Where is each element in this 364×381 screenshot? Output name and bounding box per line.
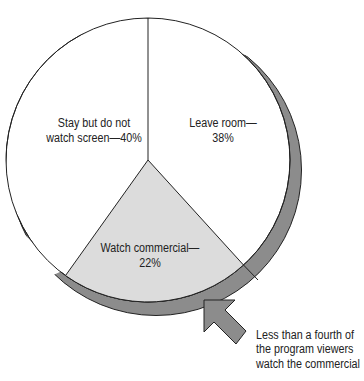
label-line: Watch commercial—: [94, 241, 206, 256]
pie-chart: [0, 0, 364, 381]
label-stay-but-not-watch: Stay but do not watch screen—40%: [34, 116, 154, 146]
label-leave-room: Leave room— 38%: [171, 116, 274, 146]
label-line: 22%: [94, 256, 206, 271]
label-line: watch screen—40%: [34, 131, 154, 146]
label-line: 38%: [171, 131, 274, 146]
label-line: Stay but do not: [34, 116, 154, 131]
label-line: Leave room—: [171, 116, 274, 131]
arrow-icon: [204, 300, 246, 344]
annotation-line: Less than a fourth of: [256, 328, 364, 342]
annotation-text: Less than a fourth of the program viewer…: [256, 328, 364, 371]
label-watch-commercial: Watch commercial— 22%: [94, 241, 206, 271]
annotation-line: the program viewers: [256, 342, 364, 356]
annotation-line: watch the commercial: [256, 357, 364, 371]
